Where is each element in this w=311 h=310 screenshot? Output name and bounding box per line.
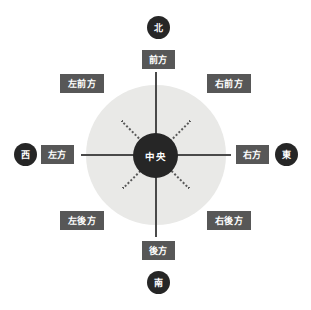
direction-tag-right-front: 右前方 (207, 74, 251, 93)
direction-tag-right: 右方 (236, 145, 269, 164)
direction-tag-left: 左方 (41, 145, 74, 164)
cardinal-badge-east: 東 (275, 143, 298, 166)
direction-tag-left-rear: 左後方 (60, 211, 104, 230)
cardinal-badge-west: 西 (14, 143, 37, 166)
cardinal-badge-south: 南 (147, 271, 170, 294)
cardinal-badge-north: 北 (147, 16, 170, 39)
direction-tag-left-front: 左前方 (60, 74, 104, 93)
direction-tag-rear: 後方 (142, 241, 175, 260)
center-label: 中央 (133, 133, 178, 178)
direction-tag-front: 前方 (142, 50, 175, 69)
direction-tag-right-rear: 右後方 (207, 211, 251, 230)
direction-compass-diagram: 中央 前方 右前方 右方 右後方 後方 左後方 左方 左前方 北 東 南 西 (0, 0, 311, 310)
